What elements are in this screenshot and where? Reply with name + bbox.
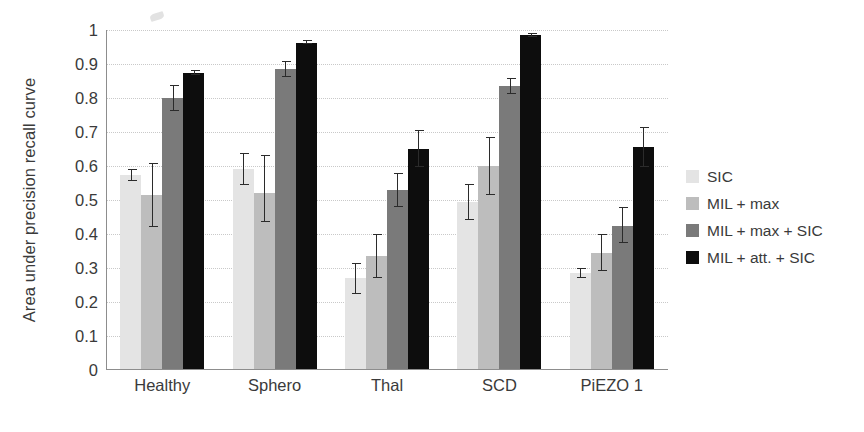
error-bar bbox=[489, 137, 490, 195]
legend-label: SIC bbox=[707, 168, 733, 186]
bar-group bbox=[218, 30, 330, 370]
error-bar bbox=[131, 169, 132, 182]
y-axis-tick-label: 0.2 bbox=[75, 293, 98, 312]
y-axis-line bbox=[106, 30, 107, 370]
bar bbox=[275, 69, 296, 370]
legend-item: MIL + max + SIC bbox=[686, 217, 858, 244]
x-axis-tick-label: Thal bbox=[371, 376, 403, 395]
error-bar bbox=[285, 61, 286, 77]
error-bar bbox=[376, 234, 377, 278]
bar bbox=[570, 273, 591, 370]
legend-swatch bbox=[686, 251, 699, 264]
bar bbox=[387, 190, 408, 370]
error-bar bbox=[531, 33, 532, 38]
error-bar bbox=[243, 153, 244, 184]
x-axis-tick-label: Healthy bbox=[134, 376, 190, 395]
bar bbox=[633, 147, 654, 370]
bar bbox=[520, 35, 541, 370]
legend-swatch bbox=[686, 224, 699, 237]
y-axis-tick-label: 1 bbox=[89, 21, 98, 40]
error-bar bbox=[468, 184, 469, 221]
y-axis-tick-labels: 10.90.80.70.60.50.40.30.20.10 bbox=[52, 0, 98, 432]
chart-legend: SICMIL + maxMIL + max + SICMIL + att. + … bbox=[686, 163, 858, 271]
bar bbox=[183, 73, 204, 371]
legend-label: MIL + max bbox=[707, 195, 779, 213]
error-bar bbox=[152, 163, 153, 227]
y-axis-tick-label: 0.8 bbox=[75, 89, 98, 108]
bar-group bbox=[443, 30, 555, 370]
y-axis-tick-label: 0.7 bbox=[75, 123, 98, 142]
bar bbox=[162, 98, 183, 370]
error-bar bbox=[306, 40, 307, 44]
y-axis-tick-label: 0.9 bbox=[75, 55, 98, 74]
legend-item: MIL + att. + SIC bbox=[686, 244, 858, 271]
x-axis-tick-label: SCD bbox=[482, 376, 517, 395]
error-bar bbox=[355, 263, 356, 294]
bar bbox=[120, 175, 141, 371]
plot-area bbox=[106, 30, 668, 370]
y-axis-tick-label: 0.1 bbox=[75, 327, 98, 346]
error-bar bbox=[643, 127, 644, 167]
legend-swatch bbox=[686, 170, 699, 183]
bar bbox=[296, 43, 317, 370]
y-axis-tick-label: 0.4 bbox=[75, 225, 98, 244]
scan-artifact-mark bbox=[149, 11, 164, 22]
error-bar bbox=[173, 85, 174, 111]
x-axis-tick-label: Sphero bbox=[248, 376, 301, 395]
x-axis-tick-labels: HealthySpheroThalSCDPiEZO 1 bbox=[106, 376, 668, 406]
bar bbox=[233, 169, 254, 370]
error-bar bbox=[194, 70, 195, 75]
bar bbox=[499, 86, 520, 370]
bar bbox=[612, 226, 633, 371]
y-axis-tick-label: 0.5 bbox=[75, 191, 98, 210]
error-bar bbox=[397, 173, 398, 207]
legend-label: MIL + att. + SIC bbox=[707, 249, 815, 267]
bar bbox=[408, 149, 429, 370]
error-bar bbox=[580, 268, 581, 278]
bar-chart-figure: Area under precision recall curve 10.90.… bbox=[0, 0, 864, 432]
y-axis-title: Area under precision recall curve bbox=[20, 30, 44, 370]
error-bar bbox=[510, 78, 511, 94]
legend-item: MIL + max bbox=[686, 190, 858, 217]
bar bbox=[478, 166, 499, 370]
bar-group bbox=[556, 30, 668, 370]
error-bar bbox=[622, 207, 623, 242]
x-axis-tick-label: PiEZO 1 bbox=[581, 376, 643, 395]
legend-swatch bbox=[686, 197, 699, 210]
error-bar bbox=[264, 155, 265, 222]
error-bar bbox=[601, 234, 602, 271]
y-axis-tick-label: 0 bbox=[89, 361, 98, 380]
error-bar bbox=[418, 130, 419, 166]
bar-group bbox=[331, 30, 443, 370]
bar bbox=[457, 202, 478, 370]
bar-group bbox=[106, 30, 218, 370]
y-axis-tick-label: 0.6 bbox=[75, 157, 98, 176]
y-axis-tick-label: 0.3 bbox=[75, 259, 98, 278]
legend-label: MIL + max + SIC bbox=[707, 222, 823, 240]
x-axis-line bbox=[106, 369, 668, 370]
legend-item: SIC bbox=[686, 163, 858, 190]
